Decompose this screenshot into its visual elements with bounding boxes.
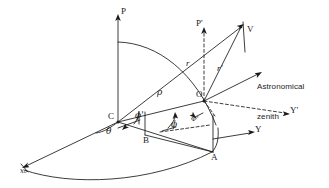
label-point-v: V	[247, 25, 254, 34]
base-line-b-a	[145, 135, 213, 152]
axis-y	[213, 130, 255, 139]
label-angle-phi-prime: ϕ'	[135, 111, 144, 120]
label-point-c: C	[108, 112, 114, 121]
label-angle-theta: θ	[106, 127, 112, 136]
polar-axis-cp	[115, 14, 121, 122]
label-angle-phi: ϕ	[171, 120, 177, 129]
label-radius-r-prime: r'	[217, 64, 223, 73]
astronomical-zenith-line1: Astronomical	[257, 82, 304, 92]
label-point-o: O	[196, 90, 203, 99]
label-astronomical-zenith: Astronomical zenith	[257, 62, 304, 132]
astronomical-zenith-line2: zenith	[257, 112, 304, 122]
ray-c-to-v	[118, 24, 244, 122]
label-point-a: A	[211, 153, 218, 162]
label-axis-p-prime: P'	[196, 19, 203, 28]
equatorial-ellipse-arc	[24, 128, 218, 180]
label-radius-rho: ρ	[157, 88, 162, 97]
tick-at-v	[243, 22, 245, 52]
label-axis-x0: x₀	[20, 168, 27, 175]
label-angle-cap-phi-prime: Φ'	[191, 116, 199, 123]
axis-x0	[21, 122, 118, 172]
label-radius-r: r	[186, 59, 190, 68]
meridian-arc	[118, 42, 216, 125]
astronomical-zenith-ray	[204, 72, 262, 101]
label-point-b: B	[143, 136, 149, 145]
label-axis-p: P	[121, 7, 126, 16]
